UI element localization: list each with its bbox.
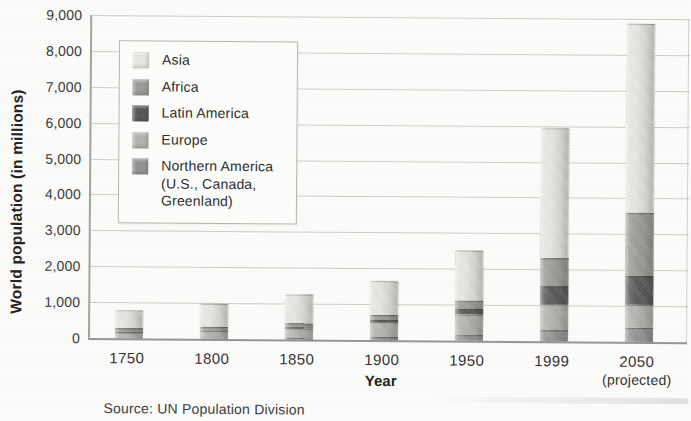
x-tick-year: 1850 [249, 350, 345, 369]
bar-1800 [200, 304, 228, 339]
x-tick-year: 1950 [419, 351, 515, 370]
bar-1950 [455, 251, 484, 341]
legend-item-latin-america: Latin America [133, 104, 291, 123]
x-tick-label-2050: 2050(projected) [589, 352, 685, 389]
segment-africa-1999 [540, 258, 568, 286]
bar-1999 [540, 128, 569, 342]
y-tick-label-8000: 8,000 [46, 42, 82, 60]
segment-asia-1950 [455, 251, 483, 302]
gridline-3000 [91, 230, 689, 235]
x-tick-label-1900: 1900 [334, 351, 430, 370]
chart: World population (in millions) 9,0008,00… [0, 0, 691, 417]
legend-swatch-europe-icon [132, 132, 148, 148]
y-tick-label-6000: 6,000 [45, 113, 81, 131]
segment-asia-1900 [370, 281, 398, 315]
legend-swatch-latin-america-icon [133, 105, 149, 121]
legend-label-latin-america: Latin America [162, 105, 250, 123]
segment-africa-1950 [455, 301, 483, 309]
y-tick-label-2000: 2,000 [44, 257, 80, 275]
segment-europe-1850 [285, 329, 313, 339]
x-tick-label-1750: 1750 [79, 349, 175, 368]
legend-item-asia: Asia [133, 51, 291, 70]
segment-europe-1950 [455, 315, 483, 335]
y-tick-label-5000: 5,000 [45, 149, 81, 167]
x-tick-year: 1800 [164, 350, 260, 369]
segment-asia-1800 [200, 304, 228, 327]
segment-asia-1750 [115, 310, 143, 328]
x-tick-year: 1750 [79, 349, 175, 368]
segment-northern-america-1900 [370, 337, 398, 340]
x-axis-title: Year [350, 372, 412, 389]
x-tick-label-1800: 1800 [164, 350, 260, 369]
legend-label-asia: Asia [162, 52, 190, 70]
x-tick-label-1850: 1850 [249, 350, 345, 369]
legend: AsiaAfricaLatin AmericaEuropeNorthern Am… [118, 40, 298, 224]
segment-northern-america-2050 [625, 328, 653, 342]
segment-africa-2050 [625, 213, 653, 277]
legend-item-europe: Europe [132, 131, 290, 150]
y-tick-label-3000: 3,000 [45, 221, 81, 239]
legend-label-northern-america: Northern America(U.S., Canada,Greenland) [161, 158, 274, 211]
bar-1900 [370, 281, 398, 340]
y-tick-label-1000: 1,000 [44, 293, 80, 311]
y-tick-label-4000: 4,000 [45, 185, 81, 203]
y-tick-label-0: 0 [72, 329, 80, 347]
x-tick-year: 2050 [589, 352, 685, 371]
segment-latin-america-2050 [625, 276, 653, 305]
segment-latin-america-1999 [540, 286, 568, 305]
segment-northern-america-1999 [540, 330, 568, 341]
segment-asia-1999 [541, 128, 570, 259]
segment-europe-2050 [625, 305, 653, 328]
legend-swatch-asia-icon [133, 52, 149, 68]
legend-item-northern-america: Northern America(U.S., Canada,Greenland) [132, 157, 290, 211]
x-tick-label-1950: 1950 [419, 351, 515, 370]
x-tick-label-1999: 1999 [504, 352, 600, 371]
segment-asia-1850 [285, 294, 313, 323]
bar-2050 [625, 24, 655, 342]
bar-1750 [115, 310, 143, 338]
legend-label-africa: Africa [162, 78, 199, 96]
gridline-9000 [92, 15, 690, 20]
legend-swatch-northern-america-icon [132, 158, 148, 174]
segment-northern-america-1850 [285, 338, 313, 339]
source-note: Source: UN Population Division [103, 399, 304, 418]
y-axis-ticks: 9,0008,0007,0006,0005,0004,0003,0002,000… [0, 14, 82, 338]
x-tick-sublabel: (projected) [589, 371, 685, 389]
gridline-2000 [90, 266, 688, 271]
y-tick-label-7000: 7,000 [46, 77, 82, 95]
segment-northern-america-1950 [455, 334, 483, 340]
scan-artifact [430, 396, 689, 404]
segment-asia-2050 [626, 24, 655, 213]
y-tick-label-9000: 9,000 [46, 6, 82, 24]
segment-europe-1900 [370, 322, 398, 337]
segment-europe-1999 [540, 304, 568, 330]
legend-label-europe: Europe [161, 131, 207, 149]
legend-swatch-africa-icon [133, 79, 149, 95]
bar-1850 [285, 294, 313, 339]
legend-item-africa: Africa [133, 78, 291, 97]
x-tick-year: 1999 [504, 352, 600, 371]
x-tick-year: 1900 [334, 351, 430, 370]
